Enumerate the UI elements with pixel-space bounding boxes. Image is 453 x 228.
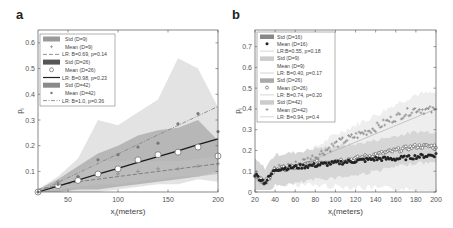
y-tick-label: 0 <box>248 189 252 196</box>
filled-circle-marker <box>404 158 407 161</box>
filled-circle-marker <box>312 162 315 165</box>
x-tick-label: 160 <box>390 196 402 203</box>
x-tick-label: 50 <box>64 196 72 203</box>
filled-circle-marker <box>264 181 267 184</box>
filled-circle-marker <box>433 155 436 158</box>
filled-circle-marker <box>266 179 269 182</box>
filled-circle-marker <box>380 159 383 162</box>
open-circle-marker <box>195 144 201 150</box>
open-circle-marker <box>407 148 410 151</box>
legend-entry: Std (D=26) <box>277 77 303 83</box>
y-tick-label: 0.3 <box>25 117 35 124</box>
filled-circle-marker <box>412 157 415 160</box>
filled-circle-marker <box>294 164 297 167</box>
figure-canvas: 501001502000.10.20.30.40.50.6xi(meters)p… <box>0 0 453 228</box>
y-tick-label: 0.1 <box>242 168 252 175</box>
x-tick-label: 40 <box>271 196 279 203</box>
star-marker <box>76 175 79 178</box>
legend-entry: Mean (D=26) <box>277 85 308 91</box>
x-tick-label: 140 <box>370 196 382 203</box>
star-marker <box>96 158 99 161</box>
filled-circle-marker <box>339 160 342 163</box>
x-axis-label: xi(meters) <box>110 207 145 217</box>
legend-entry: LR: B=0.94, p=0.4 <box>277 114 319 120</box>
legend-swatch <box>260 100 274 105</box>
legend-entry: Std (D=16) <box>277 34 303 40</box>
star-marker <box>176 122 179 125</box>
filled-circle-marker <box>336 159 339 162</box>
star-marker <box>196 112 199 115</box>
open-circle-marker <box>155 152 161 158</box>
legend-entry: LR: B=0.98, p=0.23 <box>62 75 107 81</box>
x-tick-label: 150 <box>162 196 174 203</box>
legend-entry: LR: B=0.74, p=0.20 <box>277 92 322 98</box>
y-tick-label: 0.4 <box>242 105 252 112</box>
filled-circle-marker <box>418 156 421 159</box>
filled-circle-marker <box>261 179 264 182</box>
y-tick-label: 0.1 <box>25 168 35 175</box>
legend-entry: Std (D=9) <box>65 36 88 42</box>
filled-circle-marker <box>413 154 416 157</box>
filled-circle-marker <box>299 163 302 166</box>
filled-circle-marker <box>300 167 303 170</box>
legend-entry: Mean (D=42) <box>65 90 96 96</box>
y-tick-label: 0.6 <box>242 64 252 71</box>
x-tick-label: 80 <box>311 196 319 203</box>
legend-entry: LR: B=0.40, p=0.17 <box>277 70 322 76</box>
legend-swatch <box>260 56 274 61</box>
filled-circle-marker <box>329 163 332 166</box>
filled-circle-marker <box>403 155 406 158</box>
star-marker <box>56 183 59 186</box>
legend-entry: LR: B=1.0, p=0.36 <box>62 98 104 104</box>
open-circle-marker <box>397 147 400 150</box>
filled-circle-marker <box>338 162 341 165</box>
open-circle-marker <box>315 159 318 162</box>
x-tick-label: 60 <box>291 196 299 203</box>
y-tick-label: 0.4 <box>25 91 35 98</box>
legend-swatch <box>260 35 274 40</box>
legend-entry: Std (D=9) <box>277 55 300 61</box>
y-tick-label: 0.6 <box>25 39 35 46</box>
legend-entry: Mean (D=42) <box>277 107 308 113</box>
y-tick-label: 0.7 <box>242 43 252 50</box>
x-tick-label: 100 <box>330 196 342 203</box>
open-circle-marker <box>75 177 81 183</box>
legend-entry: LR: B=0.69, p=0.14 <box>62 51 107 57</box>
filled-circle-marker <box>326 164 329 167</box>
legend-swatch <box>43 83 60 88</box>
filled-circle-marker <box>266 42 269 45</box>
y-tick-label: 0.2 <box>242 147 252 154</box>
chart-panel-b: 2040608010012014016018020000.10.20.30.40… <box>233 30 442 217</box>
filled-circle-marker <box>287 167 290 170</box>
y-tick-label: 0.5 <box>242 85 252 92</box>
filled-circle-marker <box>421 153 424 156</box>
legend-entry: LR:B=0.55, p=0.18 <box>277 48 321 54</box>
y-tick-label: 0.3 <box>242 126 252 133</box>
legend-entry: Mean (D=26) <box>65 67 96 73</box>
star-marker <box>136 145 139 148</box>
y-tick-label: 0.5 <box>25 65 35 72</box>
filled-circle-marker <box>364 160 367 163</box>
x-axis-label: xi(meters) <box>328 207 363 217</box>
open-circle-marker <box>266 86 269 89</box>
legend-swatch <box>260 78 274 83</box>
x-tick-label: 20 <box>251 196 259 203</box>
x-tick-label: 200 <box>430 196 442 203</box>
x-tick-label: 100 <box>112 196 124 203</box>
legend-entry: Std (D=26) <box>65 59 91 65</box>
star-marker <box>116 153 119 156</box>
open-circle-marker <box>50 68 54 72</box>
legend-swatch <box>43 60 60 65</box>
open-circle-marker <box>95 171 101 177</box>
open-circle-marker <box>175 149 181 155</box>
filled-circle-marker <box>297 167 300 170</box>
open-circle-marker <box>135 157 141 163</box>
star-marker <box>50 92 52 94</box>
legend-entry: Std (D=42) <box>65 82 91 88</box>
open-circle-marker <box>421 146 424 149</box>
open-circle-marker <box>413 143 416 146</box>
x-tick-label: 200 <box>212 196 224 203</box>
x-tick-label: 180 <box>410 196 422 203</box>
open-circle-marker <box>115 166 121 172</box>
filled-circle-marker <box>270 172 273 175</box>
